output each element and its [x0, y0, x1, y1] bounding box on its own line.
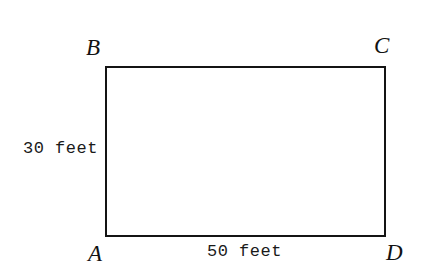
- vertex-label-a: A: [88, 242, 102, 265]
- dimension-label-height: 30 feet: [23, 140, 98, 157]
- rectangle-abcd-shape: [105, 66, 386, 237]
- vertex-label-b: B: [86, 36, 100, 59]
- vertex-label-d: D: [386, 241, 403, 264]
- dimension-label-width: 50 feet: [207, 243, 282, 260]
- vertex-label-c: C: [374, 34, 389, 57]
- geometry-figure-canvas: B C A D 30 feet 50 feet: [0, 0, 433, 280]
